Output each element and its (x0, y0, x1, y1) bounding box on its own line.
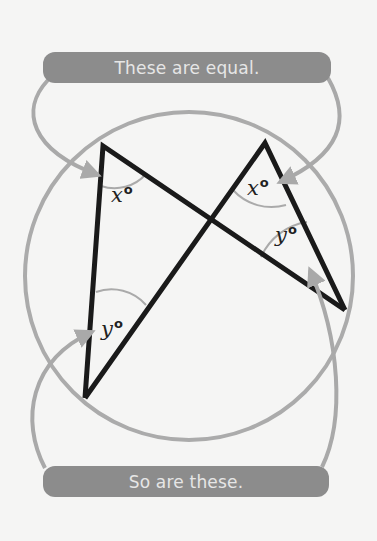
angle-label-y-right: yo (275, 223, 297, 246)
top-callout: These are equal. (43, 52, 331, 83)
bottom-callout: So are these. (43, 466, 329, 497)
bottom-callout-text: So are these. (129, 472, 244, 492)
diagram-canvas: These are equal. So are these. xo xo yo … (0, 0, 377, 541)
top-callout-text: These are equal. (114, 58, 259, 78)
circumcircle (25, 112, 353, 440)
angle-label-x-right: xo (247, 176, 269, 199)
arrow-top-left (33, 80, 98, 175)
arrow-top-right (280, 78, 340, 182)
arc-y-left (96, 289, 146, 305)
angle-label-x-left: xo (111, 183, 133, 206)
angle-label-y-left: yo (101, 317, 123, 340)
